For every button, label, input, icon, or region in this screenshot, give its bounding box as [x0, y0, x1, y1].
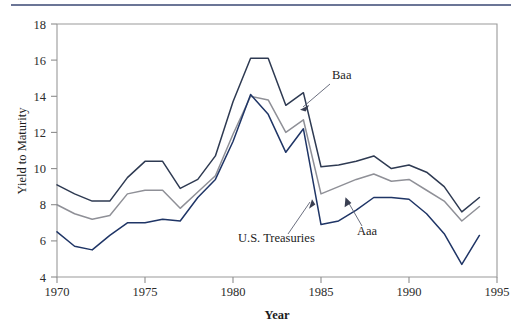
y-tick-label-8: 8	[40, 198, 46, 212]
annotation-aaa: Aaa	[345, 197, 378, 238]
y-axis-tick-labels: 18 16 14 12 10 8 6 4	[34, 18, 47, 285]
x-axis-ticks	[57, 277, 497, 283]
x-tick-label-1975: 1975	[133, 285, 158, 299]
annotation-leader-us-treasuries	[288, 202, 310, 234]
x-tick-label-1970: 1970	[45, 285, 70, 299]
series-line-baa	[57, 58, 479, 212]
y-tick-label-18: 18	[34, 18, 47, 32]
y-tick-label-14: 14	[34, 90, 47, 104]
x-axis-tick-labels: 1970 1975 1980 1985 1990 1995	[45, 285, 510, 299]
y-tick-label-6: 6	[40, 234, 46, 248]
y-tick-label-16: 16	[34, 54, 47, 68]
y-tick-label-12: 12	[34, 126, 47, 140]
x-tick-label-1980: 1980	[221, 285, 246, 299]
annotation-label-aaa: Aaa	[357, 224, 378, 238]
annotation-leader-baa	[303, 84, 330, 107]
y-tick-label-10: 10	[34, 162, 47, 176]
y-axis-ticks	[51, 24, 57, 277]
annotation-arrow-us-treasuries	[309, 199, 315, 209]
x-tick-label-1995: 1995	[485, 285, 510, 299]
annotation-label-baa: Baa	[332, 68, 352, 82]
x-axis-title: Year	[265, 308, 290, 322]
y-axis-title: Yield to Maturity	[15, 107, 29, 195]
y-tick-label-4: 4	[40, 271, 47, 285]
annotation-us-treasuries: U.S. Treasuries	[238, 199, 315, 245]
x-tick-label-1990: 1990	[397, 285, 422, 299]
annotation-baa: Baa	[300, 68, 352, 112]
annotation-label-us-treasuries: U.S. Treasuries	[238, 231, 315, 245]
chart-figure: 18 16 14 12 10 8 6 4 1970 1975 1980 1985…	[0, 0, 523, 335]
x-tick-label-1985: 1985	[309, 285, 334, 299]
yield-to-maturity-line-chart: 18 16 14 12 10 8 6 4 1970 1975 1980 1985…	[0, 0, 523, 335]
